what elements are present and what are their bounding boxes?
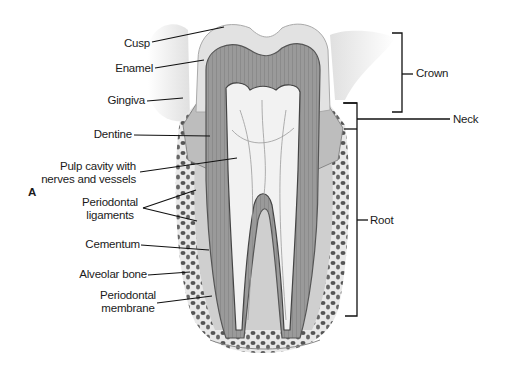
label-gingiva: Gingiva (80, 94, 145, 107)
label-cementum: Cementum (70, 238, 140, 251)
label-dentine: Dentine (60, 128, 132, 141)
label-membrane-line2: membrane (96, 302, 160, 315)
label-enamel: Enamel (90, 62, 153, 75)
label-periodontal-ligaments: Periodontal ligaments (78, 196, 142, 222)
label-crown: Crown (416, 67, 448, 80)
label-neck: Neck (453, 113, 478, 126)
label-periodontal-membrane: Periodontal membrane (96, 289, 160, 315)
tooth-illustration (0, 0, 508, 381)
tooth-anatomy-diagram: Cusp Enamel Gingiva Dentine Pulp cavity … (0, 0, 508, 381)
panel-label: A (28, 186, 36, 199)
label-cusp: Cusp (90, 37, 150, 50)
label-ligaments-line1: Periodontal (78, 196, 142, 209)
label-root: Root (370, 214, 394, 227)
label-alveolar-bone: Alveolar bone (60, 268, 147, 281)
label-ligaments-line2: ligaments (78, 209, 142, 222)
label-pulp-cavity: Pulp cavity with nerves and vessels (20, 160, 136, 186)
label-membrane-line1: Periodontal (96, 289, 160, 302)
label-pulp-line2: nerves and vessels (20, 173, 136, 186)
label-pulp-line1: Pulp cavity with (20, 160, 136, 173)
